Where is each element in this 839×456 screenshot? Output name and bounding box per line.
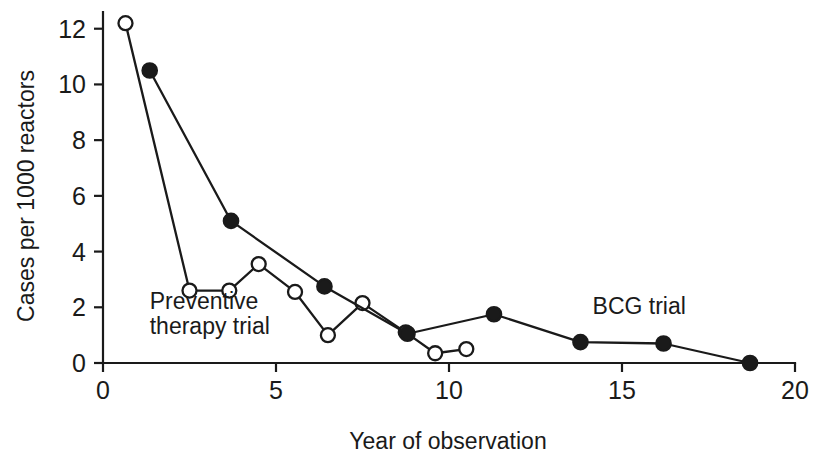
data-point-filled	[143, 63, 157, 77]
data-point-filled	[224, 214, 238, 228]
chart-annotation-label: BCG trial	[593, 293, 686, 319]
data-point-open	[252, 257, 266, 271]
y-axis-tick-label: 10	[58, 70, 86, 98]
y-axis-tick-label: 8	[72, 126, 86, 154]
data-point-open	[321, 328, 335, 342]
x-axis-tick-label: 10	[435, 376, 463, 404]
y-axis-tick-label: 12	[58, 15, 86, 43]
y-axis-tick-label: 0	[72, 349, 86, 377]
data-point-open	[118, 16, 132, 30]
data-point-filled	[743, 356, 757, 370]
x-axis-tick-label: 20	[781, 376, 809, 404]
line-chart: 05101520024681012 Preventivetherapy tria…	[0, 0, 839, 456]
data-point-open	[459, 342, 473, 356]
data-point-filled	[317, 279, 331, 293]
y-axis-tick-label: 6	[72, 182, 86, 210]
y-axis-title: Cases per 1000 reactors	[13, 70, 39, 322]
x-axis-tick-label: 5	[269, 376, 283, 404]
data-point-filled	[487, 307, 501, 321]
data-point-filled	[400, 327, 414, 341]
data-point-open	[428, 346, 442, 360]
data-point-open	[288, 285, 302, 299]
y-axis-tick-label: 4	[72, 238, 86, 266]
data-point-filled	[656, 336, 670, 350]
x-axis-title: Year of observation	[349, 428, 546, 454]
x-axis-tick-label: 0	[96, 376, 110, 404]
data-point-filled	[573, 335, 587, 349]
y-axis-tick-label: 2	[72, 293, 86, 321]
x-axis-tick-label: 15	[608, 376, 636, 404]
figure-container: 05101520024681012 Preventivetherapy tria…	[0, 0, 839, 456]
chart-annotation-label: therapy trial	[150, 313, 270, 339]
chart-annotation-label: Preventive	[150, 288, 259, 314]
